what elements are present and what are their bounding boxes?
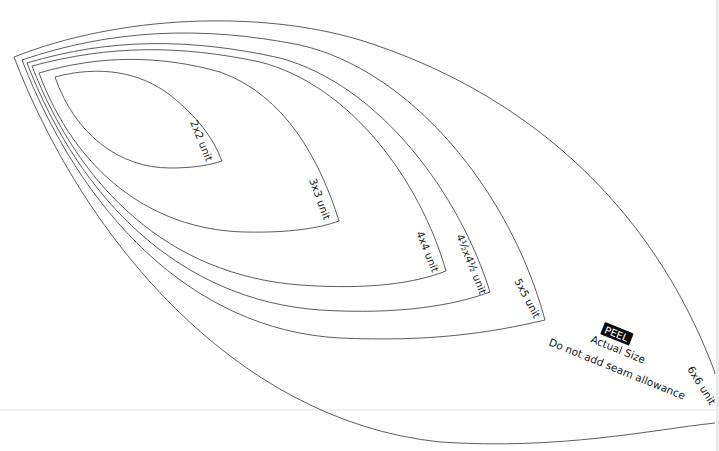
- shape-4half-outline: [27, 44, 490, 312]
- label-4x4: 4x4 unit: [414, 229, 441, 274]
- shape-5x5-outline: [22, 33, 545, 339]
- template-diagram: 2x2 unit 3x3 unit 4x4 unit 4½x4½ unit 5x…: [0, 0, 719, 451]
- label-6x6: 6x6 unit: [685, 364, 718, 407]
- label-3x3: 3x3 unit: [307, 177, 333, 222]
- shape-6x6-outline: [14, 21, 715, 444]
- shape-3x3-outline: [39, 59, 339, 232]
- shape-4x4-outline: [32, 50, 446, 287]
- label-4half: 4½x4½ unit: [454, 232, 489, 295]
